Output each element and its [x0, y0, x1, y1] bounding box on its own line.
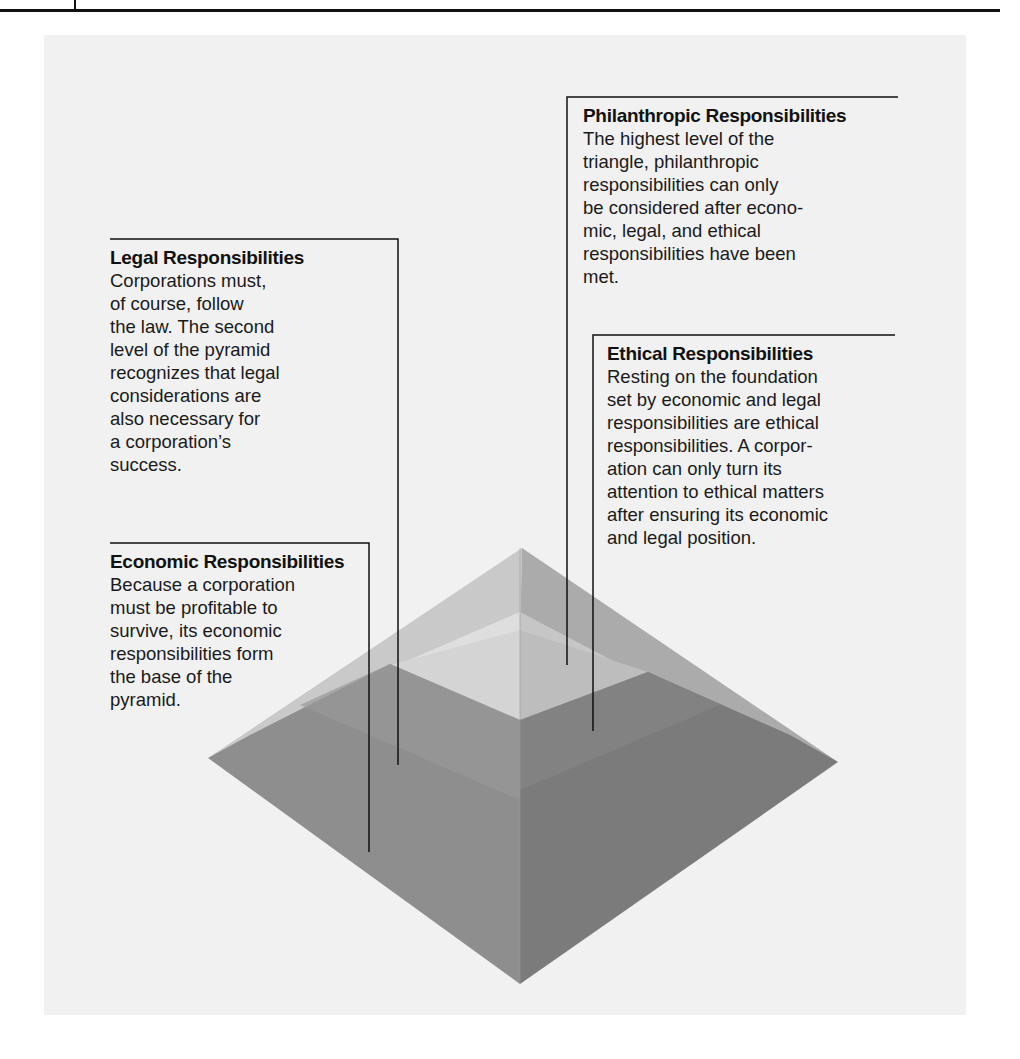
callout-title: Philanthropic Responsibilities — [583, 104, 903, 127]
callout-title: Economic Responsibilities — [110, 550, 370, 573]
callout-legal: Legal Responsibilities Corporations must… — [110, 246, 395, 476]
callout-body: Resting on the foundation set by economi… — [607, 365, 907, 549]
callout-title: Ethical Responsibilities — [607, 342, 907, 365]
callout-title: Legal Responsibilities — [110, 246, 395, 269]
callout-body: The highest level of the triangle, phila… — [583, 127, 903, 288]
callout-body: Corporations must, of course, follow the… — [110, 269, 395, 476]
callout-economic: Economic Responsibilities Because a corp… — [110, 550, 370, 711]
callout-ethical: Ethical Responsibilities Resting on the … — [607, 342, 907, 549]
callout-body: Because a corporation must be profitable… — [110, 573, 370, 711]
callout-philanthropic: Philanthropic Responsibilities The highe… — [583, 104, 903, 288]
